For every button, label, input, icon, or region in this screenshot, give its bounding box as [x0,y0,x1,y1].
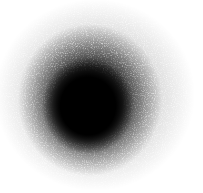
image-canvas [0,0,203,193]
grain-texture [0,0,203,193]
